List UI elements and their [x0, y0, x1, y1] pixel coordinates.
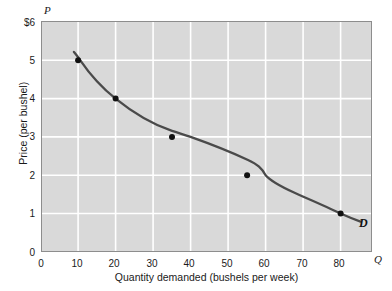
x-axis-title: Quantity demanded (bushels per week) — [41, 272, 372, 283]
data-point — [338, 211, 344, 217]
x-tick-label-80: 80 — [324, 259, 354, 269]
demand-curve-label: D — [359, 217, 368, 229]
x-tick-label-70: 70 — [287, 259, 317, 269]
x-tick-label-30: 30 — [137, 259, 167, 269]
data-point — [113, 96, 119, 102]
x-tick-label-20: 20 — [99, 259, 129, 269]
plot-svg — [42, 22, 371, 251]
y-tick-label-6: $6 — [1, 18, 35, 28]
y-tick-label-0: 0 — [1, 248, 35, 258]
x-tick-label-60: 60 — [249, 259, 279, 269]
price-axis-symbol: P — [44, 5, 51, 16]
y-tick-label-1: 1 — [1, 209, 35, 219]
x-tick-label-0: 0 — [26, 259, 56, 269]
quantity-axis-symbol: Q — [374, 254, 382, 265]
data-point — [75, 57, 81, 63]
data-point — [244, 172, 250, 178]
demand-curve-figure: P — [0, 0, 392, 291]
plot-area — [41, 21, 372, 252]
data-point — [169, 134, 175, 140]
x-tick-label-10: 10 — [62, 259, 92, 269]
gridlines-horizontal — [42, 60, 371, 213]
y-axis-title: Price (per bushel) — [18, 53, 29, 193]
x-tick-label-50: 50 — [212, 259, 242, 269]
x-tick-label-40: 40 — [174, 259, 204, 269]
